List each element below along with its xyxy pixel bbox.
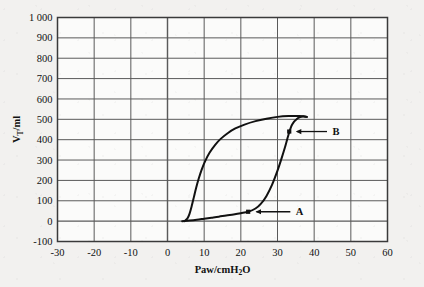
x-axis-label: Paw/cmH2O <box>195 264 251 278</box>
y-tick-label: 100 <box>37 195 53 206</box>
x-tick-label: 20 <box>236 247 247 258</box>
x-tick-label: -20 <box>87 247 101 258</box>
y-axis-label: VT/ml <box>11 116 25 143</box>
figure-canvas: -10001002003004005006007008009001 000-30… <box>0 0 424 287</box>
marker-point-B <box>287 129 291 133</box>
x-axis-ticks: -30-20-100102030405060 <box>51 247 393 258</box>
y-tick-label: 500 <box>37 114 53 125</box>
y-tick-label: 1 000 <box>29 12 53 23</box>
x-tick-label: 60 <box>382 247 393 258</box>
y-tick-label: 200 <box>37 175 53 186</box>
y-axis-ticks: -10001002003004005006007008009001 000 <box>29 12 53 247</box>
pressure-volume-loop-figure: -10001002003004005006007008009001 000-30… <box>0 0 424 287</box>
x-tick-label: 50 <box>346 247 357 258</box>
pv-loop-chart: -10001002003004005006007008009001 000-30… <box>0 0 424 287</box>
annotation-label-B: B <box>333 126 340 137</box>
y-tick-label: 0 <box>47 216 52 227</box>
annotation-label-A: A <box>296 206 304 217</box>
x-tick-label: 0 <box>165 247 170 258</box>
y-tick-label: 800 <box>37 53 53 64</box>
marker-point-A <box>246 210 250 214</box>
y-tick-label: -100 <box>33 236 52 247</box>
x-tick-label: 10 <box>199 247 210 258</box>
y-tick-label: 900 <box>37 32 53 43</box>
x-tick-label: 30 <box>272 247 283 258</box>
x-tick-label: -30 <box>51 247 65 258</box>
y-tick-label: 700 <box>37 73 53 84</box>
y-tick-label: 300 <box>37 155 53 166</box>
y-tick-label: 600 <box>37 94 53 105</box>
x-tick-label: -10 <box>124 247 138 258</box>
y-tick-label: 400 <box>37 134 53 145</box>
x-tick-label: 40 <box>309 247 320 258</box>
